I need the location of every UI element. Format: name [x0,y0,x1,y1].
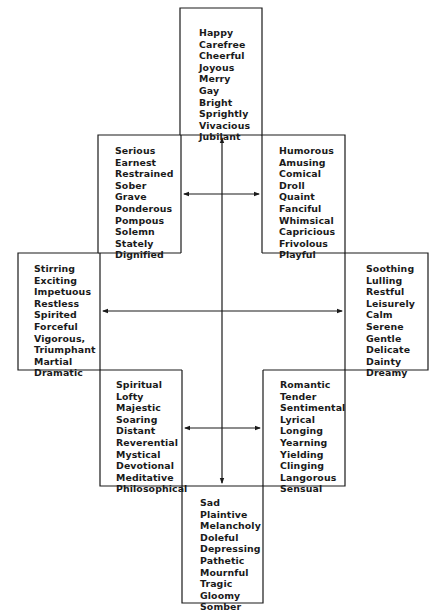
adjective: Spiritual [116,379,187,391]
adjective: Leisurely [366,298,415,310]
adjective: Amusing [279,157,335,169]
adjective: Somber [200,601,261,611]
adjective: Depressing [200,543,261,555]
adjective: Sprightly [199,108,250,120]
group-bottom-sad: Sad Plaintive Melancholy Doleful Depress… [200,497,261,611]
group-top-happy: Happy Carefree Cheerful Joyous Merry Gay… [199,27,250,143]
adjective: Happy [199,27,250,39]
adjective: Melancholy [200,520,261,532]
adjective: Gay [199,85,250,97]
adjective: Yearning [280,437,345,449]
group-left-stirring: Stirring Exciting Impetuous Restless Spi… [34,263,96,379]
adjective: Restless [34,298,96,310]
adjective: Devotional [116,460,187,472]
adjective: Stately [115,238,174,250]
adjective: Serene [366,321,415,333]
group-upper-left-serious: Serious Earnest Restrained Sober Grave P… [115,145,174,261]
adjective: Impetuous [34,286,96,298]
adjective: Earnest [115,157,174,169]
adjective: Longing [280,425,345,437]
adjective: Forceful [34,321,96,333]
adjective: Sober [115,180,174,192]
adjective: Mournful [200,567,261,579]
adjective: Joyous [199,62,250,74]
adjective: Doleful [200,532,261,544]
adjective: Lofty [116,391,187,403]
adjective: Reverential [116,437,187,449]
adjective: Stirring [34,263,96,275]
adjective: Pompous [115,215,174,227]
adjective: Delicate [366,344,415,356]
adjective: Yielding [280,449,345,461]
adjective: Droll [279,180,335,192]
adjective: Vivacious [199,120,250,132]
adjective: Solemn [115,226,174,238]
adjective: Mystical [116,449,187,461]
adjective: Soaring [116,414,187,426]
adjective: Martial [34,356,96,368]
adjective: Quaint [279,191,335,203]
adjective: Restful [366,286,415,298]
adjective: Comical [279,168,335,180]
adjective: Pathetic [200,555,261,567]
group-right-soothing: Soothing Lulling Restful Leisurely Calm … [366,263,415,379]
adjective: Carefree [199,39,250,51]
adjective: Restrained [115,168,174,180]
adjective: Frivolous [279,238,335,250]
adjective: Dainty [366,356,415,368]
adjective: Lulling [366,275,415,287]
adjective: Bright [199,97,250,109]
adjective: Tragic [200,578,261,590]
mood-adjective-diagram: Happy Carefree Cheerful Joyous Merry Gay… [0,0,444,611]
adjective: Ponderous [115,203,174,215]
group-lower-left-spiritual: Spiritual Lofty Majestic Soaring Distant… [116,379,187,495]
adjective: Fanciful [279,203,335,215]
adjective: Dramatic [34,367,96,379]
group-lower-right-romantic: Romantic Tender Sentimental Lyrical Long… [280,379,345,495]
adjective: Gentle [366,333,415,345]
adjective: Philosophical [116,483,187,495]
adjective: Humorous [279,145,335,157]
adjective: Tender [280,391,345,403]
adjective: Sentimental [280,402,345,414]
adjective: Vigorous, [34,333,96,345]
adjective: Sad [200,497,261,509]
adjective: Clinging [280,460,345,472]
adjective: Majestic [116,402,187,414]
adjective: Plaintive [200,509,261,521]
adjective: Whimsical [279,215,335,227]
adjective: Spirited [34,309,96,321]
adjective: Jubilant [199,131,250,143]
adjective: Capricious [279,226,335,238]
adjective: Lyrical [280,414,345,426]
adjective: Soothing [366,263,415,275]
group-upper-right-humorous: Humorous Amusing Comical Droll Quaint Fa… [279,145,335,261]
adjective: Merry [199,73,250,85]
adjective: Langorous [280,472,345,484]
adjective: Dreamy [366,367,415,379]
adjective: Grave [115,191,174,203]
adjective: Meditative [116,472,187,484]
adjective: Triumphant [34,344,96,356]
adjective: Calm [366,309,415,321]
adjective: Exciting [34,275,96,287]
adjective: Playful [279,249,335,261]
adjective: Dignified [115,249,174,261]
adjective: Sensual [280,483,345,495]
adjective: Gloomy [200,590,261,602]
adjective: Romantic [280,379,345,391]
adjective: Cheerful [199,50,250,62]
adjective: Distant [116,425,187,437]
adjective: Serious [115,145,174,157]
